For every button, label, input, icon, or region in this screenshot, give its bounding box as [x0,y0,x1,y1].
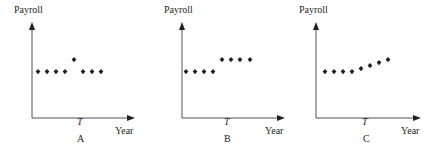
data-points [36,57,104,74]
y-axis-label: Payroll [164,4,193,15]
panel-a: Payroll T Year A [0,0,145,148]
panel-label: C [363,133,370,144]
data-points [323,57,391,74]
x-axis-label: Year [401,125,419,136]
x-tick-label: T [77,116,83,127]
panel-label: B [224,133,231,144]
x-axis-label: Year [115,125,133,136]
x-tick-label: T [224,116,230,127]
x-tick-label: T [362,116,368,127]
panel-c: Payroll T Year C [290,0,435,148]
x-axis-label: Year [265,125,283,136]
panel-label: A [77,133,84,144]
y-axis-label: Payroll [299,4,328,15]
data-points [184,57,253,74]
y-axis-label: Payroll [14,4,43,15]
panel-b: Payroll T Year B [150,0,295,148]
